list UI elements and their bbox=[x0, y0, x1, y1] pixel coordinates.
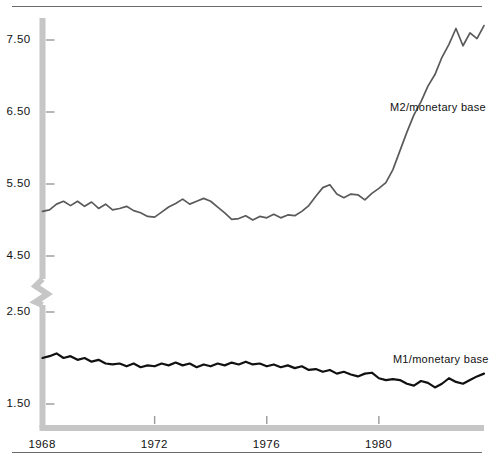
chart-plot-area bbox=[0, 0, 495, 464]
x-tick-label-1980: 1980 bbox=[365, 438, 392, 450]
x-tick-label-1976: 1976 bbox=[253, 438, 280, 450]
y-tick-label-750: 7.50 bbox=[0, 33, 31, 45]
y-tick-label-550: 5.50 bbox=[0, 177, 31, 189]
x-tick-label-1968: 1968 bbox=[29, 438, 56, 450]
y-tick-label-150: 1.50 bbox=[0, 397, 31, 409]
series-label-m1: M1/monetary base bbox=[393, 353, 489, 365]
y-axis-break-zigzag bbox=[36, 279, 48, 305]
x-tick-label-1972: 1972 bbox=[141, 438, 168, 450]
y-tick-label-650: 6.50 bbox=[0, 105, 31, 117]
chart-figure: 7.50 6.50 5.50 4.50 2.50 1.50 1968 1972 … bbox=[0, 0, 495, 464]
series-label-m2: M2/monetary base bbox=[390, 101, 486, 113]
series-layer bbox=[43, 26, 485, 388]
axis-layer bbox=[36, 18, 485, 428]
y-tick-label-450: 4.50 bbox=[0, 249, 31, 261]
y-tick-label-250: 2.50 bbox=[0, 305, 31, 317]
series-line-m2 bbox=[43, 26, 485, 220]
